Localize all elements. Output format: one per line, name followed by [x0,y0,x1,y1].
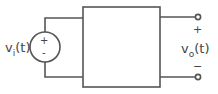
output-voltage-label: vo(t) [181,42,209,59]
input-top-wire [45,18,83,32]
source-minus-sign: - [42,48,46,58]
source-plus-sign: + [40,36,48,46]
input-voltage-label: vi(t) [5,41,30,58]
output-terminal-bottom [195,74,200,79]
two-port-block [83,7,160,87]
output-minus-sign: − [193,61,202,72]
vo-symbol: v [181,41,189,56]
vi-symbol: v [5,40,13,55]
vi-arg: (t) [15,40,30,55]
vo-arg: (t) [194,41,209,56]
output-terminal-top [195,14,200,19]
input-bottom-wire [45,62,83,77]
output-plus-sign: + [193,24,202,35]
